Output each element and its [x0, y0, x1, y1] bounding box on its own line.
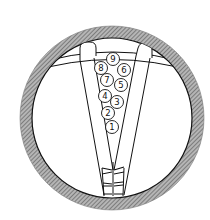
svg-text:7: 7 [104, 75, 109, 85]
ball-7: 7 [101, 74, 114, 87]
ball-6: 6 [118, 64, 131, 77]
ball-3: 3 [111, 96, 124, 109]
svg-text:5: 5 [118, 80, 123, 90]
binding-wrap [102, 162, 124, 196]
ball-2: 2 [102, 107, 115, 120]
svg-text:8: 8 [98, 63, 103, 73]
ball-1: 1 [106, 121, 119, 134]
svg-text:1: 1 [109, 122, 114, 132]
svg-text:9: 9 [110, 54, 115, 64]
ball-8: 8 [95, 62, 108, 75]
ball-5: 5 [115, 79, 128, 92]
ball-4: 4 [99, 90, 112, 103]
svg-text:4: 4 [102, 91, 107, 101]
svg-text:3: 3 [114, 97, 119, 107]
svg-text:6: 6 [121, 65, 126, 75]
ball-9: 9 [107, 53, 120, 66]
svg-text:2: 2 [105, 108, 110, 118]
ball-trough-diagram: 1 2 3 4 5 6 7 8 9 [0, 0, 210, 220]
ball-stack: 1 2 3 4 5 6 7 8 9 [95, 53, 131, 134]
